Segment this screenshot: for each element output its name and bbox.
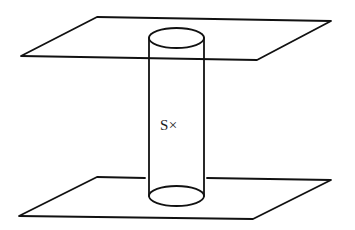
cylinder-bottom-ellipse (149, 186, 204, 206)
top-plane (21, 17, 331, 60)
cylinder-top-ellipse (149, 28, 204, 48)
bottom-plane-back-left (19, 177, 331, 219)
cylinder-label: S× (160, 118, 178, 133)
diagram-canvas (0, 0, 355, 230)
